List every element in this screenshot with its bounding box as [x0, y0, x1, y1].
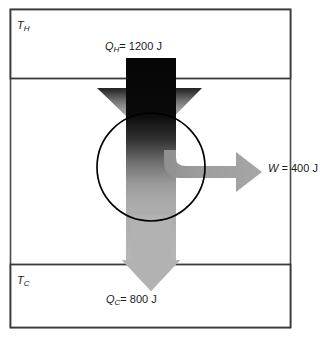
heat-in-value: 1200 [129, 40, 153, 52]
work-flow-arrow-w [164, 150, 262, 192]
work-out-label: W = 400 J [268, 163, 318, 174]
heat-out-unit: J [151, 293, 157, 305]
heat-out-symbol: Q [106, 293, 115, 305]
work-out-symbol: W [268, 162, 278, 174]
cold-reservoir-subscript: C [24, 279, 30, 288]
cold-reservoir-symbol: T [17, 274, 24, 286]
hot-reservoir-label: TH [17, 20, 30, 33]
work-out-unit: J [312, 162, 318, 174]
heat-engine-diagram: TH TC QH= 1200 J QC= 800 J W = 400 J [0, 0, 321, 338]
heat-in-label: QH= 1200 J [105, 41, 162, 54]
heat-in-equals: = [119, 40, 125, 52]
work-out-equals: = [281, 162, 287, 174]
heat-in-unit: J [156, 40, 162, 52]
heat-out-equals: = [120, 293, 126, 305]
heat-out-label: QC= 800 J [106, 294, 157, 307]
heat-in-symbol: Q [105, 40, 114, 52]
work-out-value: 400 [291, 162, 309, 174]
heat-out-value: 800 [130, 293, 148, 305]
cold-reservoir-label: TC [17, 275, 30, 288]
hot-reservoir-symbol: T [17, 19, 24, 31]
hot-reservoir-subscript: H [24, 24, 30, 33]
